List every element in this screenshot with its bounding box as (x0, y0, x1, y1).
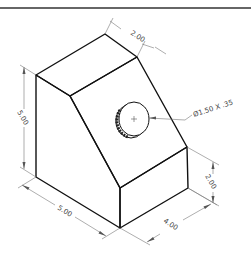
left-face (36, 75, 120, 228)
dim-front-width-label: 5.00 (56, 204, 73, 219)
hole-feature (116, 102, 149, 138)
dim-right-depth-label: 4.00 (162, 217, 179, 232)
dim-right-depth (120, 188, 217, 245)
object-outline (36, 34, 188, 228)
dim-left-height-label: 5.00 (15, 109, 30, 127)
dim-front-width (18, 177, 120, 239)
front-lower-face (120, 147, 188, 228)
hole-callout-label: Ø1.50 X .35 (192, 98, 234, 118)
isometric-drawing: Ø1.50 X .35 2.00 5.00 5.00 2.00 (0, 0, 251, 253)
dim-right-height-label: 2.00 (203, 173, 218, 191)
dim-top-depth-label: 2.00 (129, 29, 146, 44)
